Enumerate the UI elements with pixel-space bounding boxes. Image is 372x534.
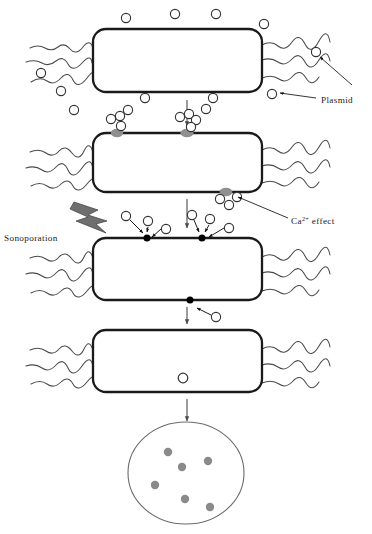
plasmid-circle xyxy=(311,47,320,56)
plasmid-circle xyxy=(161,224,170,233)
lightning-bolt-icon xyxy=(70,202,107,233)
stage1-right-pili xyxy=(262,34,330,83)
colony-dot xyxy=(151,481,159,489)
internalised-plasmid xyxy=(178,373,188,383)
bacterial-cell-1 xyxy=(93,29,262,92)
stage4-left-pili xyxy=(26,344,96,388)
pore-dot xyxy=(187,297,194,304)
plasmid-circle xyxy=(232,192,241,201)
colony-dot xyxy=(204,457,212,465)
plasmid-circle xyxy=(208,93,217,102)
stage2-right-pili xyxy=(262,140,330,188)
plasmid-circle xyxy=(143,216,152,225)
plasmid-circle xyxy=(201,104,210,113)
ca-effect-leader xyxy=(238,197,288,218)
stage-4-group xyxy=(26,330,330,392)
pore-dot xyxy=(199,235,206,242)
plasmid-circle xyxy=(175,112,184,121)
plasmid-circle xyxy=(224,200,233,209)
sonoporation-label: Sonoporation xyxy=(4,233,58,243)
colony-dot xyxy=(206,503,214,511)
stage4-right-pili xyxy=(262,339,330,388)
plasmid-circle xyxy=(215,194,224,203)
plasmid-circle xyxy=(205,214,214,223)
stage3-left-pili xyxy=(26,252,96,297)
colony-dot xyxy=(181,495,189,503)
plasmid-circle xyxy=(211,312,220,321)
plasmid-label: Plasmid xyxy=(321,95,353,105)
plasmid-leader-upper xyxy=(320,57,352,85)
bacterial-cell-2 xyxy=(93,133,262,192)
stage3-entering-plasmids-left xyxy=(121,211,170,233)
plasmid-circle xyxy=(170,9,179,18)
plasmid-circle xyxy=(69,105,78,114)
stage-3-group: Sonoporation xyxy=(4,202,330,322)
plasmid-circle xyxy=(259,19,268,28)
plasmid-circle xyxy=(224,223,233,232)
stage1-left-pili xyxy=(26,43,96,85)
bacterial-cell-4 xyxy=(93,330,262,392)
stage-1-group: Plasmid xyxy=(26,9,353,105)
plasmid-circle xyxy=(123,105,132,114)
bacterial-cell-3 xyxy=(93,238,262,300)
plasmid-circle xyxy=(56,86,65,95)
stage-5-group xyxy=(128,422,244,524)
plasmid-circle xyxy=(36,68,45,77)
colony-dot xyxy=(164,448,172,456)
plasmid-circle xyxy=(267,89,276,98)
stage3-bottom-entry-arrow xyxy=(197,308,211,315)
plasmid-circle xyxy=(115,111,124,120)
plasmid-circle xyxy=(140,93,149,102)
ca-effect-label: Ca2+ effect xyxy=(291,215,335,226)
petri-dish xyxy=(128,422,244,524)
pore-dot xyxy=(144,235,151,242)
plasmid-circle xyxy=(121,211,130,220)
figure-root: Plasmid xyxy=(0,0,372,534)
plasmid-circle xyxy=(186,122,195,131)
stage2-left-pili xyxy=(26,146,96,190)
plasmid-circle xyxy=(211,9,220,18)
plasmid-circle xyxy=(121,13,130,22)
plasmid-leader-lower xyxy=(280,93,316,98)
colony-dot xyxy=(178,463,186,471)
stage3-right-pili xyxy=(262,247,330,296)
sonoporation-diagram: Plasmid xyxy=(0,0,372,534)
plasmid-circle xyxy=(116,121,125,130)
plasmid-circle xyxy=(187,210,196,219)
plasmid-circle xyxy=(106,114,115,123)
